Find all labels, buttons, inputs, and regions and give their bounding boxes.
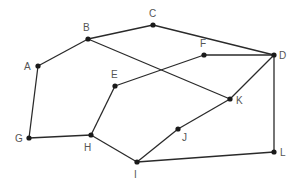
node-label-b: B — [83, 22, 90, 33]
node-k — [227, 96, 232, 101]
node-label-k: K — [236, 95, 243, 106]
node-a — [35, 63, 40, 68]
node-label-l: L — [280, 147, 286, 158]
node-h — [88, 132, 93, 137]
graph-nodes — [26, 22, 276, 164]
edge-i-l — [137, 152, 274, 162]
node-g — [26, 135, 31, 140]
edge-h-e — [91, 86, 115, 135]
edge-i-j — [137, 129, 178, 162]
edge-b-c — [88, 25, 153, 39]
node-c — [150, 22, 155, 27]
node-label-d: D — [279, 50, 286, 61]
node-label-a: A — [24, 61, 31, 72]
node-i — [134, 159, 139, 164]
edge-d-k — [230, 55, 274, 99]
node-e — [112, 83, 117, 88]
node-label-g: G — [15, 133, 23, 144]
node-f — [201, 52, 206, 57]
edge-c-d — [153, 25, 274, 55]
node-l — [271, 149, 276, 154]
node-label-h: H — [84, 142, 91, 153]
node-d — [271, 52, 276, 57]
edge-h-i — [91, 135, 137, 162]
node-label-e: E — [111, 69, 118, 80]
graph-diagram: ABCDEFGHIJKL — [0, 0, 300, 182]
edge-e-f — [115, 55, 204, 86]
edge-b-k — [88, 39, 230, 99]
graph-edges — [29, 25, 274, 162]
node-j — [175, 126, 180, 131]
node-label-c: C — [149, 8, 156, 19]
node-b — [85, 36, 90, 41]
edge-a-g — [29, 66, 38, 138]
node-label-j: J — [182, 132, 187, 143]
edge-g-h — [29, 135, 91, 138]
edge-j-k — [178, 99, 230, 129]
node-label-f: F — [200, 38, 206, 49]
node-label-i: I — [134, 169, 137, 180]
edge-a-b — [38, 39, 88, 66]
